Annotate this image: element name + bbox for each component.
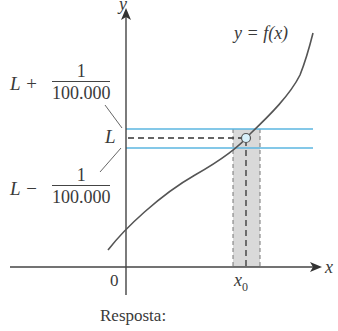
x-axis-label: x (325, 257, 333, 278)
L-label: L (105, 126, 116, 148)
graph-canvas (0, 0, 338, 331)
y-axis-label: y (119, 0, 127, 15)
curve-label: y = f(x) (234, 23, 288, 44)
x0-label: x0 (234, 270, 248, 295)
origin-label: 0 (110, 271, 119, 291)
caption: Resposta: (100, 306, 166, 326)
function-curve (108, 33, 313, 250)
limit-point (242, 134, 251, 143)
x-interval-shade (233, 129, 260, 267)
